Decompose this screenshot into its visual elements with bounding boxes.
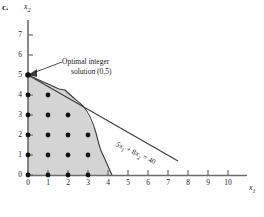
lattice-point: [86, 133, 91, 138]
x-tick-label-0: 0: [22, 178, 34, 187]
part-label: c.: [2, 2, 8, 12]
x-tick-label-9: 9: [202, 178, 214, 187]
y-tick-label-5: 5: [14, 70, 26, 79]
y-tick-label-0: 0: [14, 170, 26, 179]
lattice-point: [66, 133, 71, 138]
feasible-region-fill: [28, 75, 112, 175]
x-tick-label-5: 5: [122, 178, 134, 187]
integer-programming-figure: c. x2 x1 Optimal integer solution (0,5) …: [0, 0, 264, 217]
x-tick-label-1: 1: [42, 178, 54, 187]
optimal-solution-point: [25, 72, 31, 78]
x-tick-label-3: 3: [82, 178, 94, 187]
x-tick-label-8: 8: [182, 178, 194, 187]
lattice-point: [86, 153, 91, 158]
lattice-point: [26, 93, 31, 98]
y-tick-label-4: 4: [14, 90, 26, 99]
y-tick-label-2: 2: [14, 130, 26, 139]
lattice-point: [46, 153, 51, 158]
lattice-point: [66, 173, 71, 178]
lattice-point: [26, 133, 31, 138]
x-tick-label-7: 7: [162, 178, 174, 187]
x-tick-label-6: 6: [142, 178, 154, 187]
y-tick-label-6: 6: [14, 50, 26, 59]
lattice-point: [46, 93, 51, 98]
lattice-point: [46, 133, 51, 138]
optimal-annotation-line1: Optimal integer: [62, 57, 109, 66]
lattice-point: [86, 173, 91, 178]
lattice-point: [26, 153, 31, 158]
lattice-point: [66, 113, 71, 118]
x-axis-label: x1: [249, 183, 256, 194]
y-tick-label-1: 1: [14, 150, 26, 159]
lattice-point: [26, 113, 31, 118]
x-tick-label-4: 4: [102, 178, 114, 187]
lattice-point: [26, 173, 31, 178]
x-tick-label-2: 2: [62, 178, 74, 187]
optimal-annotation-line2: solution (0,5): [62, 67, 111, 77]
y-tick-label-3: 3: [14, 110, 26, 119]
x-tick-label-10: 10: [222, 178, 234, 187]
y-tick-label-7: 7: [14, 30, 26, 39]
optimal-solution-annotation: Optimal integer solution (0,5): [62, 57, 111, 77]
lattice-point: [46, 113, 51, 118]
y-axis-label: x2: [24, 2, 31, 13]
lattice-point: [66, 153, 71, 158]
annotation-arrow-shaft: [33, 62, 62, 73]
lattice-point: [46, 173, 51, 178]
